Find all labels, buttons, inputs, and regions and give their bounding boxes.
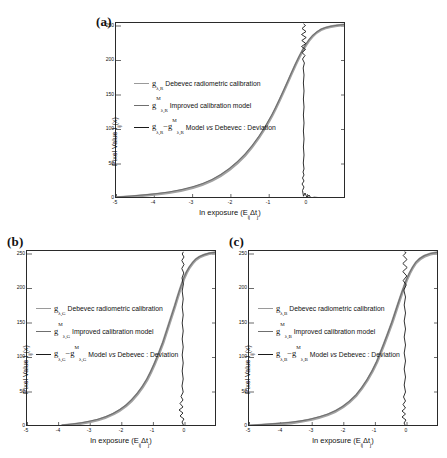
- legend-item-model-a: gMλ,R Improved calibration model: [134, 100, 276, 112]
- ytick-a-5: 250: [98, 22, 114, 28]
- legend-symbol-a-2-sup2: M: [172, 118, 176, 123]
- ytick-c-4: 200: [231, 284, 247, 290]
- curve-deviation-a: [302, 24, 346, 198]
- panel-a: (a): [96, 6, 351, 228]
- legend-symbol-b-2-base2: g: [70, 348, 74, 358]
- legend-symbol-b-2-sub: λ,G: [58, 357, 65, 362]
- panel-b-label: (b): [7, 234, 24, 250]
- xtick-b-0: -5: [24, 427, 28, 433]
- legend-label-a-1: Improved calibration model: [170, 102, 252, 109]
- xtick-b-3: -2: [119, 427, 123, 433]
- xaxis-title-a-prefix: ln exposure (E: [199, 208, 247, 217]
- ytick-b-4: 200: [9, 284, 25, 290]
- legend-symbol-b-0: gλ,G: [54, 303, 66, 315]
- xaxis-title-b: ln exposure (EijΔtj): [26, 436, 216, 447]
- legend-symbol-c-2: gλ,B−gMλ,B: [276, 348, 308, 360]
- legend-symbol-c-2-sub2: λ,B: [301, 357, 308, 362]
- xtick-b-5: 0: [183, 427, 186, 433]
- legend-symbol-b-2: gλ,G−gMλ,G: [54, 348, 86, 360]
- panel-b: (b): [4, 234, 222, 456]
- legend-symbol-b-2-sub2: λ,G: [79, 357, 86, 362]
- xtick-c-5: 0: [405, 427, 408, 433]
- legend-symbol-b-1-sub: λ,G: [63, 334, 70, 339]
- legend-b: gλ,G Debevec radiometric calibration gMλ…: [36, 303, 178, 360]
- legend-symbol-a-1-sub: λ,R: [161, 108, 168, 113]
- xaxis-title-c-sub2: j: [370, 442, 371, 448]
- yaxis-title-b-sub: ij: [27, 353, 33, 355]
- xtick-b-4: -1: [150, 427, 154, 433]
- legend-label-c-2: Model vs Debevec : Deviation: [310, 351, 400, 358]
- legend-swatch-line-icon: [258, 308, 273, 309]
- ytick-a-4: 200: [98, 56, 114, 62]
- yaxis-title-a-sub: ij: [116, 125, 122, 127]
- yaxis-title-a-prefix: Pixel Value I: [111, 128, 118, 166]
- curve-deviation-b: [179, 252, 193, 426]
- legend-symbol-c-2-sub: λ,B: [280, 357, 287, 362]
- legend-c: gλ,B Debevec radiometric calibration gMλ…: [258, 303, 400, 360]
- legend-symbol-b-1-sup: M: [58, 322, 62, 327]
- ytick-c-3: 150: [231, 319, 247, 325]
- yaxis-title-b-prefix: Pixel Value I: [22, 356, 29, 394]
- legend-symbol-c-1-sup: M: [280, 322, 284, 327]
- legend-symbol-a-2: gλ,R−gMλ,R: [152, 121, 184, 133]
- legend-symbol-b-0-sub: λ,G: [58, 311, 65, 316]
- legend-label-c-1: Improved calibration model: [294, 328, 376, 335]
- legend-swatch-line-icon: [134, 83, 149, 84]
- xtick-c-1: -4: [278, 427, 282, 433]
- xaxis-title-a-suffix: ): [258, 208, 261, 217]
- xtick-a-4: -1: [266, 199, 270, 205]
- ytick-b-3: 150: [9, 319, 25, 325]
- legend-item-deviation-c: gλ,B−gMλ,B Model vs Debevec : Deviation: [258, 348, 400, 360]
- legend-symbol-b-1: gMλ,G: [54, 326, 70, 338]
- legend-item-deviation-b: gλ,G−gMλ,G Model vs Debevec : Deviation: [36, 348, 178, 360]
- yaxis-title-c-sub: ij: [249, 353, 255, 355]
- ytick-a-3: 150: [98, 91, 114, 97]
- xaxis-title-b-sub1: ij: [139, 442, 141, 448]
- xaxis-title-b-sub2: j: [148, 442, 149, 448]
- xtick-c-3: -2: [341, 427, 345, 433]
- legend-item-deviation-a: gλ,R−gMλ,R Model vs Debevec : Deviation: [134, 121, 276, 133]
- legend-item-debevec-a: gλ,R Debevec radiometric calibration: [134, 78, 276, 90]
- legend-symbol-a-1-base: g: [152, 100, 156, 110]
- legend-symbol-c-0-sub: λ,B: [280, 311, 287, 316]
- legend-label-b-1: Improved calibration model: [72, 328, 154, 335]
- legend-swatch-line-icon: [258, 331, 273, 332]
- xaxis-title-a-sub1: ij: [248, 214, 250, 220]
- legend-label-b-2: Model vs Debevec : Deviation: [88, 351, 178, 358]
- legend-symbol-c-1-base: g: [276, 326, 280, 336]
- xtick-b-1: -4: [56, 427, 60, 433]
- legend-symbol-a-1-sup: M: [156, 96, 160, 101]
- legend-a: gλ,R Debevec radiometric calibration gMλ…: [134, 78, 276, 133]
- xtick-c-2: -3: [309, 427, 313, 433]
- legend-swatch-line-icon: [134, 105, 149, 106]
- xtick-c-0: -5: [246, 427, 250, 433]
- xaxis-title-b-prefix: ln exposure (E: [90, 436, 138, 445]
- yaxis-title-c: Pixel Value Iij(x): [244, 345, 253, 394]
- yaxis-title-b: Pixel Value Iij(x): [22, 345, 31, 394]
- legend-swatch-line-icon: [36, 354, 51, 355]
- xaxis-title-c-prefix: ln exposure (E: [312, 436, 360, 445]
- legend-swatch-line-icon: [134, 127, 149, 128]
- yaxis-title-c-prefix: Pixel Value I: [244, 356, 251, 394]
- xaxis-title-c-mid: Δt: [363, 436, 370, 445]
- xtick-b-2: -3: [87, 427, 91, 433]
- ytick-c-5: 250: [231, 250, 247, 256]
- legend-symbol-a-1: gMλ,R: [152, 100, 168, 112]
- ytick-b-5: 250: [9, 250, 25, 256]
- legend-label-b-0: Debevec radiometric calibration: [68, 305, 163, 312]
- legend-swatch-line-icon: [36, 331, 51, 332]
- xtick-a-2: -3: [189, 199, 193, 205]
- xtick-a-3: -2: [228, 199, 232, 205]
- xaxis-title-b-suffix: ): [149, 436, 152, 445]
- legend-swatch-line-icon: [36, 308, 51, 309]
- xaxis-title-a-sub2: j: [257, 214, 258, 220]
- legend-symbol-a-2-sub: λ,R: [156, 130, 163, 135]
- xaxis-title-c-suffix: ): [371, 436, 374, 445]
- legend-item-model-c: gMλ,B Improved calibration model: [258, 326, 400, 338]
- legend-label-c-0: Debevec radiometric calibration: [289, 305, 384, 312]
- legend-symbol-c-1-sub: λ,B: [285, 334, 292, 339]
- xaxis-title-c: ln exposure (EijΔtj): [248, 436, 438, 447]
- xaxis-title-c-sub1: ij: [361, 442, 363, 448]
- xtick-a-5: 0: [305, 199, 308, 205]
- legend-label-a-2: Model vs Debevec : Deviation: [186, 124, 276, 131]
